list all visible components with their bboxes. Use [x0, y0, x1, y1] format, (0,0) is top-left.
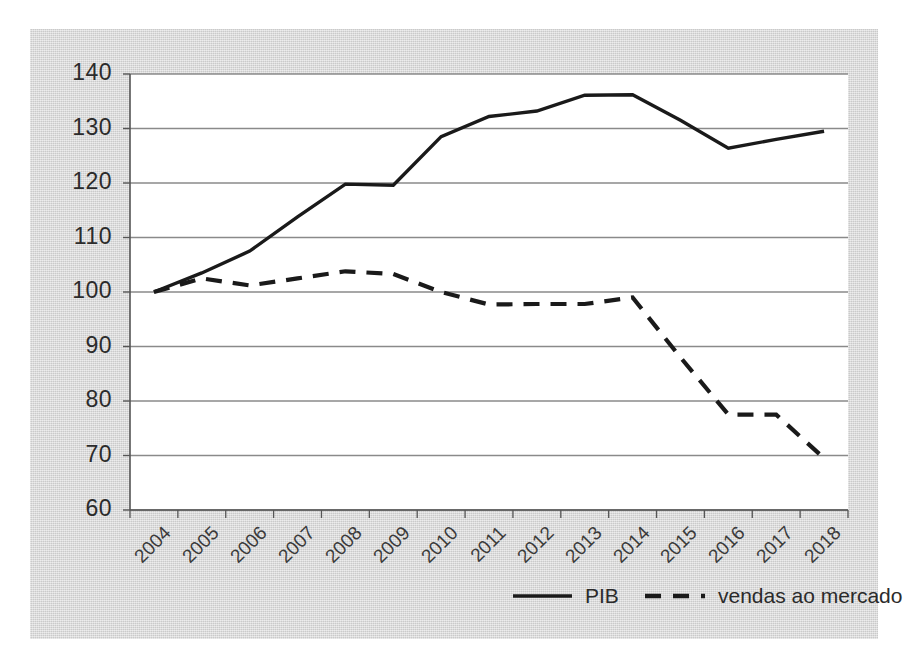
y-tick-label-70: 70 [52, 441, 112, 468]
y-tick-label-100: 100 [52, 277, 112, 304]
y-tick-label-60: 60 [52, 495, 112, 522]
x-axis-ticks [130, 510, 848, 518]
legend-label-pib: PIB [585, 584, 619, 608]
y-axis-ticks [123, 74, 130, 510]
chart-figure: 60708090100110120130140 2004200520062007… [0, 0, 906, 664]
y-tick-label-140: 140 [52, 59, 112, 86]
y-tick-label-130: 130 [52, 114, 112, 141]
y-tick-label-120: 120 [52, 168, 112, 195]
y-tick-label-110: 110 [52, 223, 112, 250]
legend-label-vendas-ao-mercado: vendas ao mercado [718, 584, 902, 608]
y-tick-label-80: 80 [52, 386, 112, 413]
y-tick-label-90: 90 [52, 332, 112, 359]
